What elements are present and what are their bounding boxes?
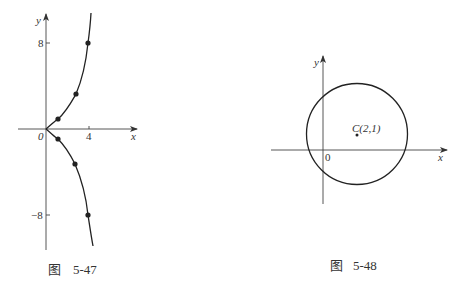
caption-number: 5-47 bbox=[73, 262, 97, 277]
y-tick-label-neg8: −8 bbox=[31, 209, 43, 221]
y-tick-label-8: 8 bbox=[38, 37, 44, 49]
curve-lower-branch bbox=[46, 129, 93, 246]
figure-5-47: y 8 −8 0 4 x 图 5-47 bbox=[18, 13, 137, 277]
point-2-neg283 bbox=[72, 161, 77, 166]
caption-number: 5-48 bbox=[353, 258, 377, 273]
point-2-283 bbox=[73, 91, 78, 96]
center-label: C(2,1) bbox=[352, 122, 381, 135]
point-4-8 bbox=[85, 40, 90, 45]
caption-prefix: 图 bbox=[48, 262, 61, 277]
x-axis-label: x bbox=[130, 130, 136, 142]
x-tick-label-4: 4 bbox=[86, 130, 92, 142]
figure-5-48: y 0 x C(2,1) 图 5-48 bbox=[271, 56, 447, 273]
figure-canvas: y 8 −8 0 4 x 图 5-47 y 0 x C(2,1) 图 5-48 bbox=[0, 0, 456, 287]
curve-upper-branch bbox=[46, 13, 91, 129]
x-axis-label: x bbox=[437, 151, 443, 163]
origin-label: 0 bbox=[38, 130, 44, 142]
point-1-neg1 bbox=[55, 136, 60, 141]
point-4-neg8 bbox=[85, 212, 90, 217]
caption-prefix: 图 bbox=[330, 258, 343, 273]
origin-label: 0 bbox=[325, 151, 331, 163]
point-1-1 bbox=[55, 116, 60, 121]
y-axis-label: y bbox=[313, 56, 319, 68]
y-axis-label: y bbox=[35, 14, 41, 26]
